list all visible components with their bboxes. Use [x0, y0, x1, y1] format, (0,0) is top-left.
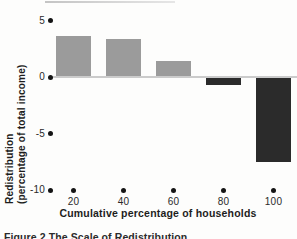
y-tick-label--5: -5: [15, 128, 45, 140]
y-tick-label-5: 5: [15, 15, 45, 27]
y-tick-dot--5: [48, 131, 53, 136]
x-tick-dot-80: [221, 188, 226, 193]
x-tick-dot-60: [171, 188, 176, 193]
y-tick-label--10: -10: [15, 184, 45, 196]
y-tick-dot--10: [48, 188, 53, 193]
y-tick-dot-0: [48, 75, 53, 80]
cropped-rule-top: [45, 1, 175, 3]
redistribution-bar-chart-figure: Redistribution (percentage of total inco…: [0, 0, 297, 239]
bar-60: [156, 61, 191, 76]
x-tick-label-80: 80: [206, 196, 242, 207]
y-tick-dot-5: [48, 18, 53, 23]
figure-caption: Figure 2 The Scale of Redistribution: [4, 231, 187, 239]
bar-20: [56, 36, 91, 76]
x-tick-dot-100: [271, 188, 276, 193]
bar-100: [256, 78, 291, 162]
x-tick-dot-40: [121, 188, 126, 193]
x-tick-label-60: 60: [156, 196, 192, 207]
bar-80: [206, 78, 241, 85]
bar-40: [106, 39, 141, 76]
y-axis-title: Redistribution (percentage of total inco…: [4, 46, 27, 204]
y-tick-label-0: 0: [15, 71, 45, 83]
x-tick-label-40: 40: [106, 196, 142, 207]
x-tick-label-100: 100: [256, 196, 292, 207]
x-axis-title: Cumulative percentage of households: [59, 207, 256, 219]
y-axis-title-line2: (percentage of total income): [16, 46, 28, 204]
x-tick-dot-20: [71, 188, 76, 193]
y-axis-title-line1: Redistribution: [4, 46, 16, 204]
x-tick-label-20: 20: [56, 196, 92, 207]
